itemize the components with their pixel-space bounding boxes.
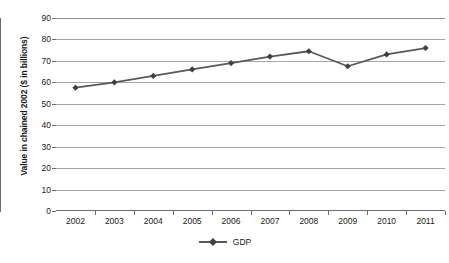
y-axis-tick-label: 70 [11,56,51,66]
y-axis-tick [52,104,56,105]
y-axis-tick-label: 90 [11,13,51,23]
x-axis-tick [173,211,174,215]
gridline [56,18,445,19]
x-axis-tick [251,211,252,215]
y-axis-line [0,18,1,212]
x-axis-tick-label: 2004 [133,216,173,226]
y-axis-tick [52,190,56,191]
gridline [56,190,445,191]
y-axis-tick [52,125,56,126]
chart-legend: GDP [0,236,449,248]
y-axis-tick-label: 60 [11,77,51,87]
x-axis-tick [328,211,329,215]
y-axis-tick-label: 40 [11,120,51,130]
x-axis-tick [289,211,290,215]
y-axis-tick [52,211,56,212]
y-axis-tick-label: 10 [11,185,51,195]
y-axis-tick [52,61,56,62]
y-axis-tick [52,147,56,148]
x-axis-tick-label: 2005 [172,216,212,226]
gridline [56,147,445,148]
x-axis-tick [406,211,407,215]
gridline [56,168,445,169]
plot-area [56,18,445,211]
y-axis-tick [52,168,56,169]
x-axis-tick-label: 2006 [211,216,251,226]
y-axis-tick-label: 20 [11,163,51,173]
y-axis-tick-label: 30 [11,142,51,152]
x-axis-tick [212,211,213,215]
y-axis-tick [52,39,56,40]
gridline [56,61,445,62]
legend-line-marker-icon [198,236,228,248]
x-axis-tick-label: 2011 [406,216,446,226]
y-axis-tick-labels: 0102030405060708090 [0,0,51,263]
x-axis-tick [445,211,446,215]
x-axis-tick-label: 2009 [328,216,368,226]
gridline [56,82,445,83]
y-axis-tick [52,82,56,83]
x-axis-tick [95,211,96,215]
legend-label-gdp: GDP [233,237,251,247]
gridline [56,104,445,105]
x-axis-tick-label: 2008 [289,216,329,226]
x-axis-tick-label: 2007 [250,216,290,226]
y-axis-tick [52,18,56,19]
gridline [56,39,445,40]
x-axis-tick-label: 2010 [367,216,407,226]
gdp-line-chart: Value in chained 2002 ($ in billions) 01… [0,0,449,263]
x-axis-tick-label: 2003 [94,216,134,226]
gridline [56,125,445,126]
y-axis-tick-label: 50 [11,99,51,109]
y-axis-tick-label: 80 [11,34,51,44]
x-axis-tick-label: 2002 [55,216,95,226]
y-axis-tick-label: 0 [11,206,51,216]
x-axis-tick [134,211,135,215]
x-axis-tick [367,211,368,215]
